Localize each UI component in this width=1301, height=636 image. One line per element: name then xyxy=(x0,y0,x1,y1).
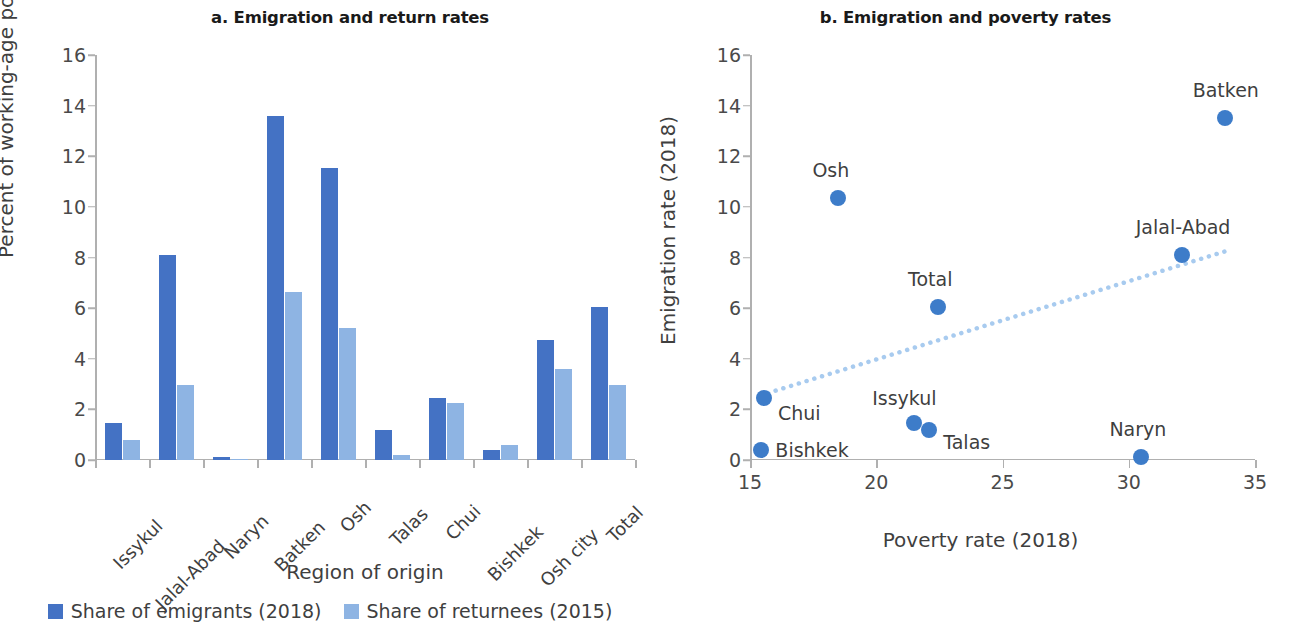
scatter-point-label: Bishkek xyxy=(775,439,848,461)
panel-b-y-tick-label: 14 xyxy=(717,95,741,117)
bar-osh-city-returnees xyxy=(555,369,572,460)
panel-a-y-tick xyxy=(88,257,95,259)
legend-label: Share of returnees (2015) xyxy=(367,600,613,622)
scatter-point-naryn xyxy=(1133,449,1149,465)
panel-b-y-tick xyxy=(743,307,750,309)
panel-a-y-tick-label: 2 xyxy=(74,398,86,420)
panel-b-x-tick xyxy=(1003,460,1005,468)
bar-osh-returnees xyxy=(339,328,356,460)
legend-swatch-icon xyxy=(48,604,63,619)
bar-jalal-abad-emigrants xyxy=(159,255,176,460)
scatter-point-label: Talas xyxy=(943,431,990,453)
panel-a-x-tick xyxy=(635,460,637,468)
panel-a-y-axis-title: Percent of working-age population xyxy=(0,0,18,258)
legend-swatch-icon xyxy=(344,604,359,619)
scatter-point-batken xyxy=(1217,110,1233,126)
scatter-point-jalal-abad xyxy=(1174,247,1190,263)
panel-b-x-tick-label: 35 xyxy=(1243,471,1267,493)
legend-item[interactable]: Share of emigrants (2018) xyxy=(48,600,322,622)
scatter-point-label: Osh xyxy=(812,159,849,181)
bar-total-emigrants xyxy=(591,307,608,460)
panel-emigration-poverty-rates: b. Emigration and poverty rates Emigrati… xyxy=(660,0,1301,590)
scatter-point-label: Batken xyxy=(1193,79,1259,101)
bar-naryn-emigrants xyxy=(213,457,230,460)
panel-a-x-tick xyxy=(527,460,529,468)
panel-a-y-tick-label: 4 xyxy=(74,348,86,370)
panel-b-y-axis-title: Emigration rate (2018) xyxy=(656,116,680,345)
panel-a-y-tick-label: 14 xyxy=(62,95,86,117)
scatter-point-chui xyxy=(756,390,772,406)
panel-b-y-tick-label: 16 xyxy=(717,44,741,66)
panel-b-y-tick xyxy=(743,156,750,158)
bar-chui-returnees xyxy=(447,403,464,460)
panel-b-y-tick xyxy=(743,409,750,411)
bar-osh-city-emigrants xyxy=(537,340,554,460)
panel-b-x-tick xyxy=(876,460,878,468)
bar-issykul-emigrants xyxy=(105,423,122,460)
panel-b-y-tick-label: 6 xyxy=(729,297,741,319)
panel-a-category-label: Naryn xyxy=(220,510,273,563)
panel-a-y-tick xyxy=(88,105,95,107)
panel-b-y-tick xyxy=(743,358,750,360)
bar-talas-emigrants xyxy=(375,430,392,460)
legend-label: Share of emigrants (2018) xyxy=(71,600,322,622)
scatter-point-label: Naryn xyxy=(1109,418,1166,440)
legend-item[interactable]: Share of returnees (2015) xyxy=(344,600,613,622)
scatter-point-label: Issykul xyxy=(872,387,936,409)
panel-b-x-tick-label: 30 xyxy=(1117,471,1141,493)
panel-a-y-tick-label: 8 xyxy=(74,247,86,269)
panel-b-y-tick-label: 0 xyxy=(729,449,741,471)
bar-bishkek-returnees xyxy=(501,445,518,460)
scatter-point-label: Total xyxy=(908,268,952,290)
scatter-point-label: Jalal-Abad xyxy=(1136,216,1231,238)
panel-a-y-tick xyxy=(88,307,95,309)
bar-chui-emigrants xyxy=(429,398,446,460)
panel-a-y-tick xyxy=(88,54,95,56)
panel-a-category-label: Osh xyxy=(336,497,376,537)
panel-a-x-tick xyxy=(581,460,583,468)
scatter-plot-area: 0246810121416 1520253035 BishkekChuiOshI… xyxy=(750,55,1255,460)
panel-a-x-tick xyxy=(95,460,97,468)
panel-a-x-tick xyxy=(419,460,421,468)
panel-b-x-tick xyxy=(1129,460,1131,468)
panel-a-y-tick xyxy=(88,409,95,411)
panel-a-x-tick xyxy=(311,460,313,468)
panel-b-y-tick-label: 10 xyxy=(717,196,741,218)
scatter-point-total xyxy=(930,299,946,315)
bar-bishkek-emigrants xyxy=(483,450,500,460)
panel-a-x-tick xyxy=(473,460,475,468)
panel-a-x-tick xyxy=(149,460,151,468)
panel-a-category-label: Talas xyxy=(386,503,432,549)
bar-issykul-returnees xyxy=(123,440,140,460)
panel-a-y-axis xyxy=(95,55,97,460)
panel-b-y-tick-label: 12 xyxy=(717,145,741,167)
panel-b-x-tick-label: 25 xyxy=(990,471,1014,493)
panel-a-y-tick-label: 0 xyxy=(74,449,86,471)
bar-naryn-returnees xyxy=(231,459,248,460)
panel-b-y-tick-label: 2 xyxy=(729,398,741,420)
bar-batken-returnees xyxy=(285,292,302,460)
bar-talas-returnees xyxy=(393,455,410,460)
panel-b-y-tick xyxy=(743,257,750,259)
panel-a-x-tick xyxy=(257,460,259,468)
scatter-point-talas xyxy=(921,422,937,438)
panel-a-x-tick xyxy=(365,460,367,468)
bar-total-returnees xyxy=(609,385,626,460)
panel-a-y-tick xyxy=(88,459,95,461)
panel-b-x-axis-title: Poverty rate (2018) xyxy=(660,528,1301,552)
panel-a-y-tick-label: 6 xyxy=(74,297,86,319)
bar-chart-plot-area: 0246810121416 IssykulJalal-AbadNarynBatk… xyxy=(95,55,635,460)
panel-b-title: b. Emigration and poverty rates xyxy=(660,8,1301,27)
panel-a-y-tick xyxy=(88,206,95,208)
panel-b-x-tick-label: 15 xyxy=(738,471,762,493)
panel-a-category-label: Chui xyxy=(441,501,484,544)
scatter-point-label: Chui xyxy=(778,402,821,424)
bar-jalal-abad-returnees xyxy=(177,385,194,460)
panel-a-x-tick xyxy=(203,460,205,468)
panel-b-y-tick-label: 8 xyxy=(729,247,741,269)
panel-a-y-tick xyxy=(88,156,95,158)
panel-a-title: a. Emigration and return rates xyxy=(0,8,660,27)
panel-b-y-tick-label: 4 xyxy=(729,348,741,370)
bar-osh-emigrants xyxy=(321,168,338,460)
panel-a-category-label: Total xyxy=(603,502,648,547)
